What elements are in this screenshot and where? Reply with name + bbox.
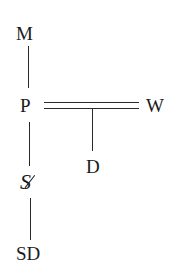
edge-m-p bbox=[28, 46, 29, 88]
edge-pw-d bbox=[92, 109, 93, 151]
node-sd: SD bbox=[16, 244, 40, 263]
node-barred-s: S bbox=[20, 171, 31, 193]
node-d: D bbox=[86, 157, 100, 176]
node-w: W bbox=[146, 96, 164, 115]
edge-p-barred-s bbox=[29, 122, 30, 166]
edge-p-w-upper bbox=[44, 102, 139, 103]
node-m: M bbox=[16, 24, 33, 43]
node-p: P bbox=[20, 96, 31, 115]
edge-barred-s-sd bbox=[30, 198, 31, 240]
